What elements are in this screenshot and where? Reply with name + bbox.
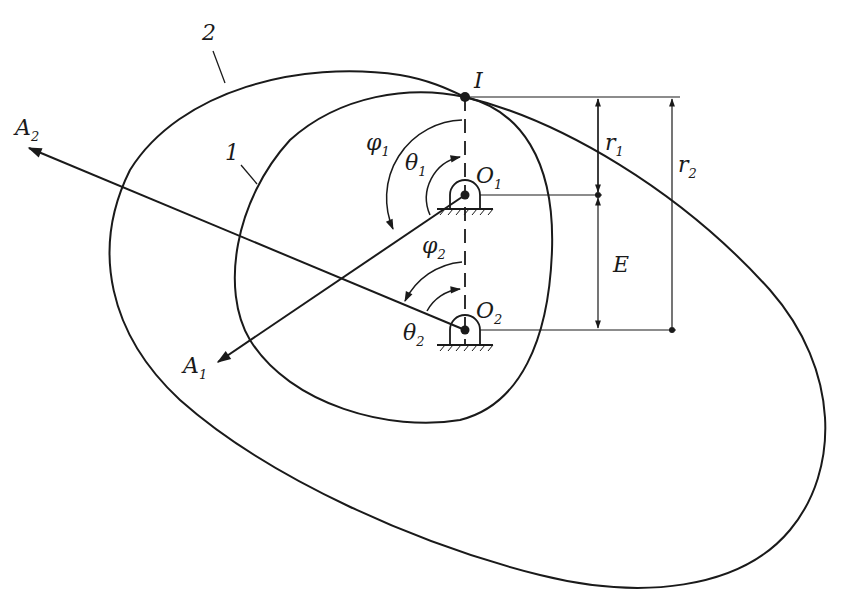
axis-a1-arrow (218, 195, 465, 362)
gear-diagram: 2 1 I O1 O2 A2 A1 φ1 θ1 φ2 θ2 r1 r2 E (0, 0, 841, 605)
label-r2: r2 (678, 152, 697, 181)
label-pitch-point: I (473, 68, 484, 93)
label-o2: O2 (476, 298, 502, 327)
theta-2-arc (427, 289, 460, 311)
label-body-2: 2 (201, 20, 216, 45)
label-theta-1: θ1 (405, 150, 427, 179)
label-o1: O1 (476, 163, 502, 192)
label-e: E (612, 252, 629, 277)
label-r1: r1 (605, 130, 624, 159)
leader-line-2 (213, 51, 225, 83)
phi-2-arc (405, 262, 462, 301)
leader-line-1 (241, 165, 257, 184)
label-theta-2: θ2 (403, 320, 425, 349)
body-1-outline (235, 92, 552, 422)
label-phi-2: φ2 (422, 233, 446, 262)
label-phi-1: φ1 (366, 130, 390, 159)
label-a1: A1 (181, 353, 207, 382)
theta-1-arc (426, 157, 460, 215)
label-a2: A2 (13, 115, 39, 144)
label-body-1: 1 (225, 140, 239, 165)
